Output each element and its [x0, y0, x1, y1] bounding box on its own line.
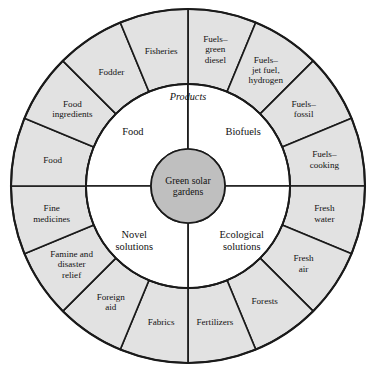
- wheel-svg: Green solargardensProductsFoodBiofuelsEc…: [0, 0, 378, 372]
- concentric-wheel-diagram: Green solargardensProductsFoodBiofuelsEc…: [0, 0, 378, 372]
- outer-label-fuels-fossil: Fuels–fossil: [291, 99, 316, 119]
- inner-label-food: Food: [122, 126, 144, 137]
- outer-label-fuels-cooking: Fuels–cooking: [310, 149, 340, 169]
- outer-label-fabrics: Fabrics: [148, 317, 175, 327]
- outer-label-forests: Forests: [252, 296, 279, 306]
- outer-label-fertilizers: Fertilizers: [196, 317, 233, 327]
- inner-label-biofuels: Biofuels: [226, 126, 261, 137]
- inner-label-ecological-solutions: Ecologicalsolutions: [220, 229, 265, 252]
- outer-label-fresh-water: Freshwater: [314, 203, 335, 223]
- outer-label-food: Food: [43, 155, 62, 165]
- outer-label-fuels-green-diesel: Fuels–greendiesel: [203, 34, 228, 65]
- outer-label-fisheries: Fisheries: [145, 46, 178, 56]
- outer-label-fodder: Fodder: [98, 67, 124, 77]
- products-annotation-label: Products: [169, 91, 206, 102]
